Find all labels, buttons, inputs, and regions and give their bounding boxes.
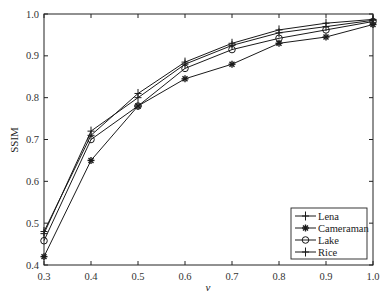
- data-point-marker: [88, 131, 95, 140]
- y-tick-label: 1.0: [26, 9, 39, 20]
- series-lena: [41, 16, 377, 238]
- data-point-marker: [88, 157, 95, 164]
- y-tick-label: 0.6: [26, 176, 39, 187]
- x-tick-label: 1.0: [366, 271, 379, 282]
- data-point-marker: [135, 89, 142, 98]
- series-line: [44, 19, 373, 231]
- y-tick-label: 0.8: [26, 92, 39, 103]
- x-tick-label: 0.5: [131, 271, 144, 282]
- legend-label: Lena: [318, 211, 339, 222]
- x-tick-label: 0.4: [84, 271, 98, 282]
- y-tick-label: 0.7: [26, 134, 39, 145]
- series-rice: [41, 15, 377, 236]
- x-tick-label: 0.3: [37, 271, 50, 282]
- data-point-marker: [182, 75, 189, 82]
- y-tick-label: 0.4: [26, 260, 40, 271]
- y-tick-label: 0.9: [26, 50, 39, 61]
- legend-label: Cameraman: [318, 223, 369, 234]
- x-tick-label: 0.6: [178, 271, 191, 282]
- y-tick-label: 0.5: [26, 218, 39, 229]
- y-axis-label: SSIM: [8, 127, 20, 153]
- legend-label: Lake: [318, 235, 339, 246]
- data-point-marker: [323, 34, 330, 41]
- x-axis-label: v: [206, 281, 211, 293]
- data-point-marker: [229, 61, 236, 68]
- legend-label: Rice: [318, 247, 338, 258]
- x-tick-label: 0.9: [319, 271, 332, 282]
- data-point-marker: [182, 58, 189, 67]
- x-tick-label: 0.7: [225, 271, 238, 282]
- legend: LenaCameramanLakeRice: [291, 208, 369, 259]
- x-tick-label: 0.8: [272, 271, 285, 282]
- ssim-line-chart: 0.30.40.50.60.70.80.91.0 0.40.50.60.70.8…: [0, 0, 392, 303]
- legend-marker-icon: [302, 225, 309, 232]
